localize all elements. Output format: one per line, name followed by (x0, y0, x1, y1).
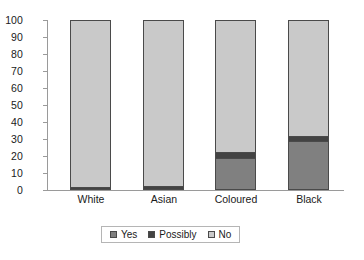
bar-stack-coloured[interactable] (215, 20, 256, 190)
bar-stack-white[interactable] (70, 20, 111, 190)
y-tick-mark-40 (43, 122, 47, 123)
bar-group-coloured: Coloured (215, 20, 256, 190)
y-tick-label-70: 70 (0, 66, 23, 77)
y-tick-label-30: 30 (0, 134, 23, 145)
y-tick-label-80: 80 (0, 49, 23, 60)
stacked-bar-chart: 100 90 80 70 60 50 40 30 20 10 0 (0, 0, 364, 260)
legend-label-yes: Yes (121, 230, 137, 240)
bar-segment-white-possibly[interactable] (71, 187, 110, 189)
bar-segment-white-no[interactable] (71, 20, 110, 187)
y-tick-mark-10 (43, 173, 47, 174)
bar-stack-black[interactable] (288, 20, 329, 190)
y-tick-mark-90 (43, 37, 47, 38)
legend-label-no: No (219, 230, 232, 240)
y-tick-mark-20 (43, 156, 47, 157)
bar-segment-coloured-possibly[interactable] (216, 152, 255, 159)
y-tick-label-10: 10 (0, 168, 23, 179)
legend-swatch-yes-icon (110, 231, 117, 238)
bar-segment-coloured-yes[interactable] (216, 158, 255, 189)
bar-group-black: Black (288, 20, 329, 190)
legend-entry-no[interactable]: No (208, 230, 232, 240)
legend-swatch-no-icon (208, 231, 215, 238)
y-tick-label-50: 50 (0, 100, 23, 111)
y-tick-mark-60 (43, 88, 47, 89)
y-tick-label-100: 100 (0, 15, 23, 26)
bar-segment-black-yes[interactable] (289, 141, 328, 189)
bar-stack-asian[interactable] (143, 20, 184, 190)
y-tick-mark-0 (43, 190, 47, 191)
legend-label-possibly: Possibly (159, 230, 196, 240)
y-tick-label-40: 40 (0, 117, 23, 128)
y-tick-mark-30 (43, 139, 47, 140)
bar-segment-black-no[interactable] (289, 20, 328, 136)
y-tick-label-20: 20 (0, 151, 23, 162)
plot-area: 100 90 80 70 60 50 40 30 20 10 0 (47, 20, 344, 190)
legend-entry-yes[interactable]: Yes (110, 230, 137, 240)
x-tick-label-black: Black (264, 194, 354, 205)
y-tick-label-0: 0 (0, 185, 23, 196)
y-tick-label-60: 60 (0, 83, 23, 94)
y-tick-label-90: 90 (0, 32, 23, 43)
legend-entry-possibly[interactable]: Possibly (148, 230, 196, 240)
chart-legend: Yes Possibly No (101, 226, 240, 243)
bar-segment-asian-no[interactable] (144, 20, 183, 186)
bar-segment-asian-possibly[interactable] (144, 186, 183, 189)
y-tick-mark-70 (43, 71, 47, 72)
x-axis-line (47, 190, 344, 191)
bar-segment-coloured-no[interactable] (216, 20, 255, 152)
bar-group-white: White (70, 20, 111, 190)
y-tick-mark-80 (43, 54, 47, 55)
y-tick-mark-50 (43, 105, 47, 106)
legend-swatch-possibly-icon (148, 231, 155, 238)
y-tick-mark-100 (43, 20, 47, 21)
bar-group-asian: Asian (143, 20, 184, 190)
